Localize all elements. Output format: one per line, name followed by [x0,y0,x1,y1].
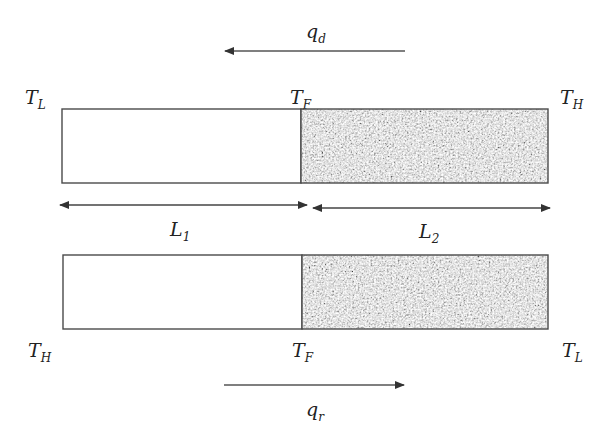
bottom-plain-layer [63,255,302,329]
bottom-heat-flow: qr [224,385,404,424]
bottom-right-temp-label: TL [562,339,583,365]
length-label-l1: L1 [169,218,190,244]
top-bar [62,109,548,183]
bottom-interface-temp-label: TF [292,339,314,365]
top-plain-layer [62,109,301,183]
length-label-l2: L2 [418,220,439,246]
top-right-temp-label: TH [560,86,584,112]
heat-flow-label-qd: qd [306,20,326,46]
heat-flow-label-qr: qr [306,398,325,424]
top-heat-flow: qd [225,20,405,51]
top-left-temp-label: TL [25,86,46,112]
top-speckled-layer [301,109,548,183]
thermal-layer-diagram: qd TL TF TH L1 L2 TH TF TL qr [0,0,614,438]
dimension-l2: L2 [313,208,550,246]
bottom-left-temp-label: TH [28,339,52,365]
bottom-bar [63,255,548,329]
bottom-speckled-layer [302,255,548,329]
dimension-l1: L1 [60,205,307,244]
top-interface-temp-label: TF [290,86,312,112]
